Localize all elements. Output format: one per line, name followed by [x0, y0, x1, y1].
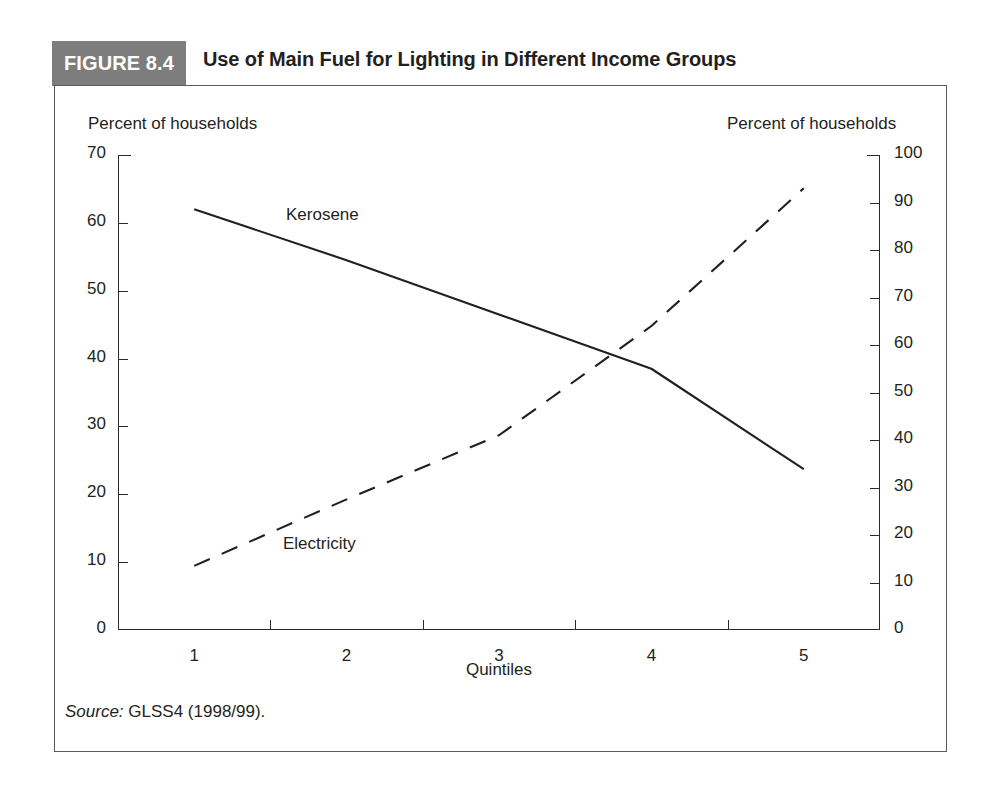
left-axis-tick: [118, 359, 128, 360]
right-axis-tick: [870, 440, 880, 441]
right-axis-tick-label: 100: [894, 143, 940, 163]
x-axis-tick: [575, 620, 576, 630]
right-axis-tick-label: 30: [894, 476, 940, 496]
right-axis-tick-label: 10: [894, 571, 940, 591]
right-axis-tick: [870, 488, 880, 489]
x-axis-tick-label: 5: [784, 646, 824, 666]
right-axis-tick-label: 50: [894, 381, 940, 401]
right-axis-tick: [870, 250, 880, 251]
left-axis-tick-label: 50: [66, 279, 106, 299]
left-axis-tick-label: 20: [66, 482, 106, 502]
figure-title: Use of Main Fuel for Lighting in Differe…: [203, 48, 736, 71]
left-axis-tick-label: 40: [66, 347, 106, 367]
kerosene-series-line: [194, 209, 804, 469]
left-axis-tick-label: 0: [66, 618, 106, 638]
x-axis-tick: [728, 620, 729, 630]
source-prefix: Source:: [65, 702, 124, 721]
source-text: GLSS4 (1998/99).: [124, 702, 266, 721]
series-lines: [118, 155, 880, 630]
left-axis-tick-label: 70: [66, 143, 106, 163]
x-axis-tick: [423, 620, 424, 630]
left-axis-tick: [118, 291, 128, 292]
right-axis-tick-label: 0: [894, 618, 940, 638]
left-axis-tick-label: 60: [66, 211, 106, 231]
left-axis-tick: [118, 223, 128, 224]
right-axis-tick-label: 90: [894, 191, 940, 211]
right-axis-tick: [870, 345, 880, 346]
source-note: Source: GLSS4 (1998/99).: [65, 702, 265, 722]
x-axis-tick-label: 4: [631, 646, 671, 666]
left-axis-tick: [118, 426, 128, 427]
left-axis-tick-label: 10: [66, 550, 106, 570]
right-axis-tick: [870, 298, 880, 299]
right-axis-header: Percent of households: [727, 114, 896, 134]
right-axis-tick-label: 20: [894, 523, 940, 543]
left-axis-tick-label: 30: [66, 414, 106, 434]
right-axis-tick: [870, 393, 880, 394]
right-axis-tick-label: 80: [894, 238, 940, 258]
figure-number-label: FIGURE 8.4: [64, 52, 174, 75]
kerosene-series-label: Kerosene: [286, 205, 359, 225]
electricity-series-line: [194, 188, 804, 566]
right-axis-tick-label: 70: [894, 286, 940, 306]
right-axis-tick: [870, 203, 880, 204]
x-axis-tick-label: 1: [174, 646, 214, 666]
figure-number-badge: FIGURE 8.4: [52, 41, 186, 86]
x-axis-tick: [270, 620, 271, 630]
right-axis-tick-label: 40: [894, 428, 940, 448]
left-axis-tick: [118, 494, 128, 495]
figure-page: FIGURE 8.4 Use of Main Fuel for Lighting…: [0, 0, 994, 791]
x-axis-tick-label: 2: [327, 646, 367, 666]
right-axis-tick: [870, 583, 880, 584]
plot-area: Kerosene Electricity Quintiles 010203040…: [118, 155, 880, 630]
right-axis-tick: [870, 535, 880, 536]
left-axis-tick: [118, 562, 128, 563]
right-axis-tick-label: 60: [894, 333, 940, 353]
left-axis-header: Percent of households: [88, 114, 257, 134]
x-axis-tick-label: 3: [479, 646, 519, 666]
electricity-series-label: Electricity: [283, 534, 356, 554]
